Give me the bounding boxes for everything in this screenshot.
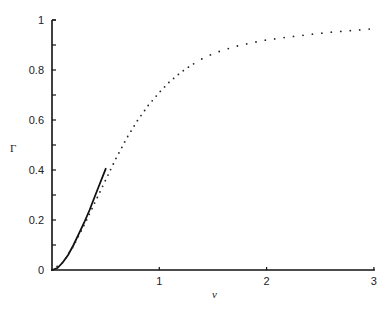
dotted-curve-point: [94, 202, 96, 204]
x-tick-label: 2: [264, 275, 270, 287]
chart: 00.20.40.60.81123 Γ ν: [0, 0, 392, 315]
dotted-curve-point: [302, 34, 304, 36]
dotted-curve-point: [359, 29, 361, 31]
dotted-curve-point: [147, 105, 149, 107]
dotted-curve-point: [349, 30, 351, 32]
y-tick-label: 0: [38, 264, 44, 276]
dotted-curve-point: [218, 51, 220, 53]
dotted-curve-point: [118, 152, 120, 154]
dotted-curve-point: [321, 32, 323, 34]
dotted-curve-point: [255, 41, 257, 43]
dotted-curve-point: [107, 174, 109, 176]
dotted-curve-point: [110, 169, 112, 171]
dotted-curve-point: [340, 31, 342, 33]
y-tick-label: 0.4: [29, 164, 44, 176]
dotted-curve-point: [104, 180, 106, 182]
dotted-curve-point: [144, 110, 146, 112]
dotted-curve-point: [188, 66, 190, 68]
dotted-curve-point: [88, 213, 90, 215]
x-tick-label: 3: [371, 275, 377, 287]
solid-curve: [52, 169, 106, 270]
series: [51, 28, 370, 271]
dotted-curve-point: [330, 31, 332, 33]
dotted-curve-point: [210, 54, 212, 56]
dotted-curve-point: [155, 95, 157, 97]
x-tick-label: 1: [156, 275, 162, 287]
dotted-curve-point: [293, 36, 295, 38]
dotted-curve-point: [182, 70, 184, 72]
dotted-curve-point: [83, 225, 85, 227]
y-tick-label: 1: [38, 14, 44, 26]
dotted-curve-point: [264, 39, 266, 41]
dotted-curve-point: [68, 252, 70, 254]
dotted-curve-point: [173, 78, 175, 80]
dotted-curve-point: [137, 120, 139, 122]
dotted-curve-point: [77, 236, 79, 238]
dotted-curve-point: [124, 141, 126, 143]
dotted-curve-point: [96, 197, 98, 199]
dotted-curve-point: [80, 230, 82, 232]
dotted-curve-point: [51, 269, 53, 271]
dotted-curve-point: [159, 91, 161, 93]
dotted-curve-point: [86, 219, 88, 221]
dotted-curve-point: [115, 158, 117, 160]
y-axis-label: Γ: [10, 142, 16, 154]
dotted-curve-point: [237, 45, 239, 47]
dotted-curve-point: [133, 125, 135, 127]
dotted-curve-point: [274, 38, 276, 40]
dotted-curve-point: [127, 136, 129, 138]
dotted-curve-point: [121, 147, 123, 149]
dotted-curve-point: [193, 63, 195, 65]
dotted-curve-point: [112, 163, 114, 165]
dotted-curve-point: [75, 241, 77, 243]
x-axis-label: ν: [212, 288, 217, 300]
dotted-curve-point: [61, 262, 63, 264]
dotted-curve-point: [91, 208, 93, 210]
dotted-curve-point: [151, 100, 153, 102]
dotted-curve-point: [168, 82, 170, 84]
y-tick-label: 0.2: [29, 214, 44, 226]
dotted-curve-point: [368, 28, 370, 30]
dotted-curve-point: [56, 266, 58, 268]
dotted-curve-point: [246, 43, 248, 45]
axes: 00.20.40.60.81123: [29, 14, 377, 287]
dotted-curve-point: [227, 48, 229, 50]
dotted-curve-point: [312, 33, 314, 35]
y-tick-label: 0.8: [29, 64, 44, 76]
dotted-curve-point: [72, 247, 74, 249]
dotted-curve-point: [130, 130, 132, 132]
dotted-curve-point: [283, 37, 285, 39]
dotted-curve-point: [164, 86, 166, 88]
dotted-curve-point: [140, 115, 142, 117]
dotted-curve-point: [102, 185, 104, 187]
dotted-curve-point: [201, 58, 203, 60]
y-tick-label: 0.6: [29, 114, 44, 126]
dotted-curve-point: [178, 74, 180, 76]
dotted-curve-point: [65, 257, 67, 259]
dotted-curve-point: [99, 191, 101, 193]
